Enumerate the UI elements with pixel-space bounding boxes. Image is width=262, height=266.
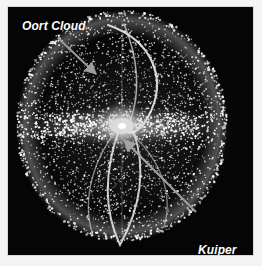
kuiper-belt-label: Kuiper Belt (198, 219, 237, 255)
kuiper-belt-arrow (124, 140, 196, 212)
kuiper-belt-label-line-1: Kuiper (198, 244, 237, 255)
figure-root: Oort Cloud Kuiper Belt (0, 0, 262, 266)
oort-cloud-label: Oort Cloud (22, 20, 86, 33)
image-plate: Oort Cloud Kuiper Belt (8, 7, 253, 255)
annotation-layer (8, 7, 253, 255)
oort-cloud-scene: Oort Cloud Kuiper Belt (8, 7, 253, 255)
oort-cloud-arrow (58, 38, 96, 74)
